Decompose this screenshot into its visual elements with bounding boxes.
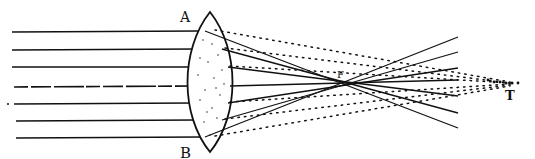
- label-a: A: [179, 9, 191, 25]
- label-b: B: [180, 144, 191, 159]
- label-f: F: [337, 69, 344, 80]
- refracted-rays: [205, 31, 458, 137]
- label-t: T: [505, 88, 515, 103]
- incoming-rays: [12, 31, 200, 138]
- lens-diagram: A B F T: [0, 0, 535, 159]
